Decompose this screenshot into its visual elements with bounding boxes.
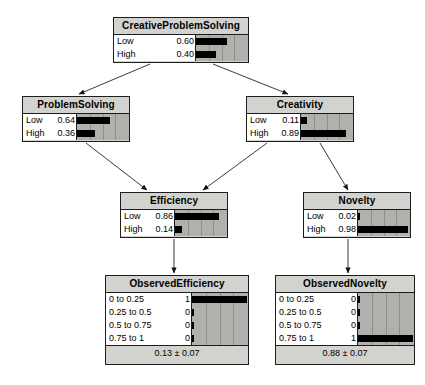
state-label: High bbox=[247, 127, 276, 140]
bar-gridline bbox=[201, 223, 202, 236]
bar-gridline bbox=[115, 127, 116, 140]
network-diagram-canvas: CreativeProblemSolvingLow0.60High0.40Pro… bbox=[0, 0, 425, 385]
node-creativity[interactable]: CreativityLow0.11High0.89 bbox=[246, 96, 354, 142]
node-novelty[interactable]: NoveltyLow0.02High0.98 bbox=[303, 192, 411, 238]
state-row[interactable]: High0.14 bbox=[121, 223, 227, 236]
bar-fill bbox=[175, 226, 182, 233]
bar-gridline bbox=[213, 223, 214, 236]
bar-fill bbox=[77, 130, 95, 137]
state-row[interactable]: 0 to 0.251 bbox=[106, 293, 248, 306]
state-bar bbox=[174, 210, 227, 223]
state-table: Low0.02High0.98 bbox=[304, 210, 410, 236]
state-bar bbox=[174, 223, 227, 236]
edge-creativeproblemsolving-to-problemsolving bbox=[79, 64, 150, 94]
state-probability: 1 bbox=[337, 332, 357, 345]
bar-gridline bbox=[396, 210, 397, 223]
bar-fill bbox=[358, 322, 360, 329]
state-probability: 0.14 bbox=[150, 223, 174, 236]
state-label: 0.75 to 1 bbox=[276, 332, 337, 345]
state-bar bbox=[357, 293, 414, 306]
bar-gridline bbox=[220, 306, 221, 319]
state-bar bbox=[195, 35, 248, 48]
state-row[interactable]: High0.89 bbox=[247, 127, 353, 140]
state-bar bbox=[195, 48, 248, 61]
state-probability: 0.98 bbox=[333, 223, 357, 236]
node-title: ProblemSolving bbox=[23, 97, 129, 114]
state-bar bbox=[357, 332, 414, 345]
state-probability: 0.02 bbox=[333, 210, 357, 223]
state-row[interactable]: 0.5 to 0.750 bbox=[276, 319, 414, 332]
state-row[interactable]: Low0.64 bbox=[23, 114, 129, 127]
bar-gridline bbox=[234, 48, 235, 61]
bar-gridline bbox=[399, 293, 400, 306]
node-observednovelty[interactable]: ObservedNovelty0 to 0.2500.25 to 0.500.5… bbox=[275, 275, 415, 365]
state-label: High bbox=[304, 223, 333, 236]
node-title: CreativeProblemSolving bbox=[114, 18, 248, 35]
state-row[interactable]: 0.25 to 0.50 bbox=[106, 306, 248, 319]
bar-gridline bbox=[399, 306, 400, 319]
state-label: High bbox=[23, 127, 52, 140]
bar-gridline bbox=[233, 306, 234, 319]
state-row[interactable]: Low0.02 bbox=[304, 210, 410, 223]
bar-gridline bbox=[234, 35, 235, 48]
state-row[interactable]: High0.36 bbox=[23, 127, 129, 140]
node-title: Novelty bbox=[304, 193, 410, 210]
state-probability: 0 bbox=[167, 319, 191, 332]
state-label: Low bbox=[247, 114, 276, 127]
node-title: ObservedEfficiency bbox=[106, 276, 248, 293]
state-table: Low0.11High0.89 bbox=[247, 114, 353, 140]
state-label: Low bbox=[121, 210, 150, 223]
state-bar bbox=[191, 293, 248, 306]
state-probability: 0.86 bbox=[150, 210, 174, 223]
state-row[interactable]: Low0.60 bbox=[114, 35, 248, 48]
state-row[interactable]: 0 to 0.250 bbox=[276, 293, 414, 306]
bar-gridline bbox=[220, 332, 221, 345]
state-row[interactable]: Low0.11 bbox=[247, 114, 353, 127]
state-probability: 1 bbox=[167, 293, 191, 306]
bar-fill bbox=[358, 335, 413, 342]
node-mean-value: 0.13 ± 0.07 bbox=[106, 346, 248, 361]
bar-gridline bbox=[314, 114, 315, 127]
bar-gridline bbox=[372, 319, 373, 332]
state-label: 0.5 to 0.75 bbox=[106, 319, 167, 332]
node-observedefficiency[interactable]: ObservedEfficiency0 to 0.2510.25 to 0.50… bbox=[105, 275, 249, 365]
state-row[interactable]: 0.75 to 10 bbox=[106, 332, 248, 345]
bar-fill bbox=[192, 335, 194, 342]
state-row[interactable]: High0.98 bbox=[304, 223, 410, 236]
bar-gridline bbox=[188, 223, 189, 236]
edge-problemsolving-to-efficiency bbox=[86, 143, 147, 190]
bar-fill bbox=[301, 117, 307, 124]
state-row[interactable]: High0.40 bbox=[114, 48, 248, 61]
state-bar bbox=[76, 114, 129, 127]
node-title: ObservedNovelty bbox=[276, 276, 414, 293]
state-bar bbox=[357, 223, 410, 236]
state-probability: 0.60 bbox=[157, 35, 195, 48]
edge-creativeproblemsolving-to-creativity bbox=[213, 64, 288, 94]
state-row[interactable]: 0.5 to 0.750 bbox=[106, 319, 248, 332]
state-row[interactable]: Low0.86 bbox=[121, 210, 227, 223]
state-probability: 0 bbox=[337, 293, 357, 306]
state-label: 0.25 to 0.5 bbox=[106, 306, 167, 319]
bar-gridline bbox=[115, 114, 116, 127]
state-label: Low bbox=[114, 35, 157, 48]
state-label: High bbox=[121, 223, 150, 236]
node-creativeproblemsolving[interactable]: CreativeProblemSolvingLow0.60High0.40 bbox=[113, 17, 249, 63]
state-probability: 0 bbox=[167, 306, 191, 319]
state-table: 0 to 0.2500.25 to 0.500.5 to 0.7500.75 t… bbox=[276, 293, 414, 346]
bar-fill bbox=[77, 117, 110, 124]
state-label: 0.25 to 0.5 bbox=[276, 306, 337, 319]
bar-gridline bbox=[327, 114, 328, 127]
bar-gridline bbox=[372, 293, 373, 306]
state-bar bbox=[76, 127, 129, 140]
state-row[interactable]: 0.75 to 11 bbox=[276, 332, 414, 345]
state-row[interactable]: 0.25 to 0.50 bbox=[276, 306, 414, 319]
state-bar bbox=[191, 332, 248, 345]
node-problemsolving[interactable]: ProblemSolvingLow0.64High0.36 bbox=[22, 96, 130, 142]
state-label: Low bbox=[23, 114, 52, 127]
node-efficiency[interactable]: EfficiencyLow0.86High0.14 bbox=[120, 192, 228, 238]
state-label: 0 to 0.25 bbox=[276, 293, 337, 306]
bar-gridline bbox=[206, 332, 207, 345]
bar-fill bbox=[358, 309, 360, 316]
bar-gridline bbox=[206, 306, 207, 319]
node-title: Efficiency bbox=[121, 193, 227, 210]
